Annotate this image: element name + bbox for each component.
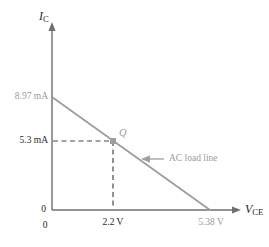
x-axis-title-subscript: CE <box>252 207 263 217</box>
x-tick-label-2-2v: 2.2 V <box>103 218 124 228</box>
annotation-leader <box>141 156 164 163</box>
ac-load-line-annotation: AC load line <box>169 154 218 164</box>
y-tick-label-zero: 0 <box>41 205 46 215</box>
ac-load-line-figure: IC VCE 8.97 mA 5.3 mA 0 0 2.2 V 5.38 V Q… <box>0 0 269 247</box>
y-tick-label-5-3ma: 5.3 mA <box>20 136 49 146</box>
x-axis <box>52 206 241 213</box>
q-point-marker <box>110 138 116 144</box>
y-axis-arrowhead <box>48 22 55 31</box>
q-point-label: Q <box>119 128 127 139</box>
x-tick-label-5-38v: 5.38 V <box>198 218 224 228</box>
x-tick-label-origin-zero: 0 <box>43 221 48 231</box>
y-axis <box>48 22 55 210</box>
y-axis-title: IC <box>39 10 49 24</box>
y-axis-title-subscript: C <box>43 14 49 24</box>
y-tick-label-8-97ma: 8.97 mA <box>15 92 48 102</box>
x-axis-arrowhead <box>232 206 241 213</box>
x-axis-title: VCE <box>245 203 263 217</box>
